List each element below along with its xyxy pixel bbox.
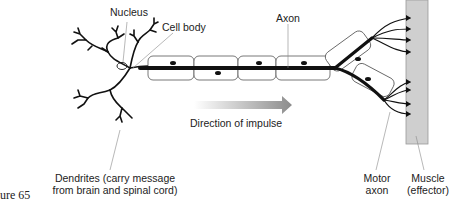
muscle-bar bbox=[406, 0, 428, 144]
cell-body-label: Cell body bbox=[162, 21, 206, 33]
motor-axon-label-line2: axon bbox=[352, 184, 402, 196]
dendrites-label-line2: from brain and spinal cord) bbox=[45, 184, 185, 196]
leader-lines bbox=[110, 22, 424, 170]
motor-axon-label: Motor axon bbox=[352, 172, 402, 196]
muscle-label-line2: (effector) bbox=[400, 184, 451, 196]
muscle-label-line1: Muscle bbox=[400, 172, 451, 184]
axon-label: Axon bbox=[276, 12, 300, 24]
myelin-sheath bbox=[148, 29, 396, 99]
nucleus-label: Nucleus bbox=[110, 6, 148, 18]
dendrites-label-line1: Dendrites (carry message bbox=[45, 172, 185, 184]
figure-caption: ure 65 bbox=[0, 188, 30, 203]
direction-label: Direction of impulse bbox=[190, 117, 282, 129]
muscle-label: Muscle (effector) bbox=[400, 172, 451, 196]
direction-arrow-icon bbox=[194, 96, 292, 114]
motor-axon-label-line1: Motor bbox=[352, 172, 402, 184]
dendrites-label: Dendrites (carry message from brain and … bbox=[45, 172, 185, 196]
